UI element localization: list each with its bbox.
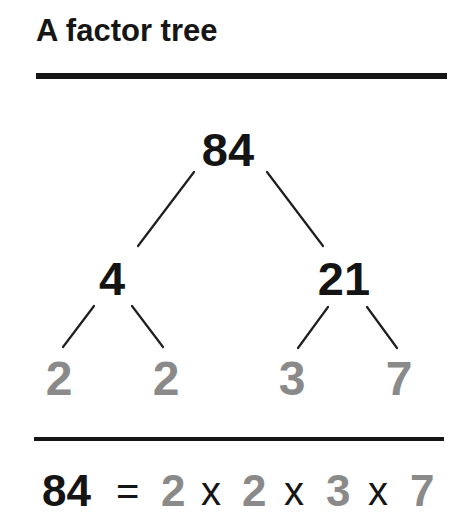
tree-node-21: 21 [304,255,384,302]
tree-branches [0,0,466,532]
branch-4-to-2a [63,306,94,347]
prime-factorization-equation: 84 = 2 x 2 x 3 x 7 [0,466,466,516]
times-sign: x [368,466,388,516]
branch-84-to-4 [138,172,194,246]
bottom-divider [34,437,444,441]
equation-factor: 2 [242,466,266,516]
equation-factor: 7 [410,466,434,516]
branch-21-to-3 [298,307,328,348]
tree-node-root: 84 [178,126,278,173]
tree-leaf-prime: 2 [136,355,196,403]
equals-sign: = [116,466,139,516]
branch-21-to-7 [367,307,397,348]
tree-leaf-prime: 3 [262,355,322,403]
branch-4-to-2b [132,306,163,347]
times-sign: x [201,466,221,516]
times-sign: x [284,466,304,516]
equation-factor: 3 [326,466,350,516]
branch-84-to-21 [267,172,323,246]
tree-node-4: 4 [72,255,152,302]
tree-leaf-prime: 2 [29,355,89,403]
equation-factor: 2 [161,466,185,516]
equation-lhs: 84 [42,466,91,516]
tree-leaf-prime: 7 [369,355,429,403]
